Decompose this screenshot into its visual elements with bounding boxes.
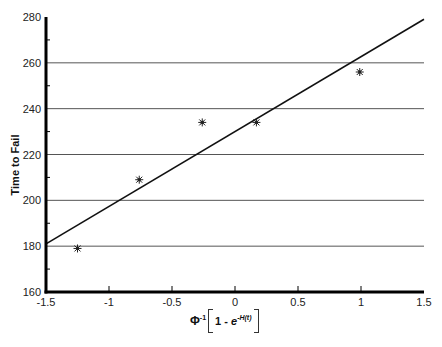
x-title-inner: 1 -: [215, 315, 231, 327]
x-tick-label: 1: [358, 296, 364, 308]
axes: [45, 17, 425, 294]
asterisk-marker-icon: [74, 244, 82, 252]
asterisk-marker-icon: [356, 68, 364, 76]
asterisk-marker-icon: [252, 118, 260, 126]
asterisk-marker-icon: [135, 176, 143, 184]
y-tick-label: 280: [23, 11, 41, 23]
horizontal-gridlines: [46, 63, 424, 246]
y-tick-label: 220: [23, 149, 41, 161]
data-points: [74, 68, 364, 252]
y-tick-label: 180: [23, 240, 41, 252]
x-tick-label: -1.5: [37, 296, 56, 308]
fitted-line: [46, 19, 424, 244]
y-tick-label: 260: [23, 57, 41, 69]
x-title-phi: Φ: [190, 314, 200, 328]
y-tick-labels: 160180200220240260280: [23, 11, 41, 298]
fit-line: [46, 19, 424, 244]
left-bracket: [208, 309, 213, 333]
x-tick-label: -0.5: [163, 296, 182, 308]
right-bracket: [254, 309, 259, 333]
y-tick-label: 200: [23, 194, 41, 206]
asterisk-marker-icon: [198, 118, 206, 126]
y-tick-label: 240: [23, 103, 41, 115]
y-axis-title: Time to Fail: [9, 135, 21, 196]
x-tick-label: -1: [104, 296, 114, 308]
probability-plot: 160180200220240260280 -1.5-1-0.500.511.5…: [0, 0, 442, 347]
x-axis-title: Φ-1 1 - e-H(t): [190, 306, 300, 336]
x-tick-label: 1.5: [416, 296, 431, 308]
x-title-phi-exponent: -1: [200, 314, 206, 321]
x-title-e-exponent: -H(t): [237, 314, 251, 321]
